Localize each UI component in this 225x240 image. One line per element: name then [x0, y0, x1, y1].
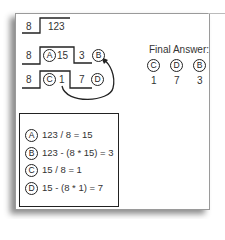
- legend-equation: 15 - (8 * 1) = 7: [42, 182, 103, 194]
- label-a-icon: A: [43, 49, 56, 62]
- final-label-c-icon: C: [147, 59, 160, 72]
- final-answer-title: Final Answer:: [149, 44, 209, 55]
- dividend: 123: [48, 21, 65, 33]
- label-d-icon: D: [91, 73, 104, 86]
- divisor-2: 8: [26, 50, 32, 62]
- remainder-2: 7: [79, 74, 85, 86]
- final-digit-3: 3: [197, 75, 203, 87]
- legend-b-icon: B: [25, 147, 38, 160]
- final-label-b-icon: B: [193, 59, 206, 72]
- final-digit-2: 7: [174, 75, 180, 87]
- legend-c-icon: C: [25, 164, 38, 177]
- final-label-d-icon: D: [170, 59, 183, 72]
- legend-equation: 15 / 8 = 1: [42, 164, 82, 176]
- remainder-1: 3: [79, 50, 85, 62]
- legend-equation: 123 - (8 * 15) = 3: [42, 147, 114, 159]
- legend-box: A 123 / 8 = 15 B 123 - (8 * 15) = 3 C 15…: [19, 113, 119, 207]
- divisor-3: 8: [26, 74, 32, 86]
- label-c-icon: C: [43, 73, 56, 86]
- quotient-1: 15: [57, 50, 68, 62]
- legend-d-icon: D: [25, 182, 38, 195]
- legend-equation: 123 / 8 = 15: [42, 129, 92, 141]
- divisor-1: 8: [26, 21, 32, 33]
- label-b-icon: B: [92, 49, 105, 62]
- final-digit-1: 1: [151, 75, 157, 87]
- quotient-2: 1: [59, 74, 65, 86]
- legend-a-icon: A: [25, 129, 38, 142]
